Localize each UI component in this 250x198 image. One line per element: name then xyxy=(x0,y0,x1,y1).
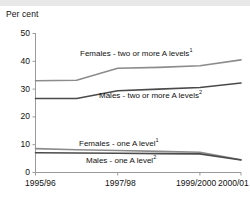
x-tick-label-1997-98: 1997/98 xyxy=(105,178,136,188)
series-line-0 xyxy=(36,60,242,81)
series-label-females-one: Females - one A level1 xyxy=(79,137,159,148)
series-label-females-two-or-more: Females - two or more A levels1 xyxy=(80,47,192,58)
line-chart: 50 40 30 20 10 0 1995/96 1997/98 1999/20… xyxy=(0,0,250,198)
series-label-text: Females - two or more A levels xyxy=(80,49,189,58)
y-tick-label-40: 40 xyxy=(12,56,30,66)
y-tick-label-50: 50 xyxy=(12,28,30,38)
y-tick-label-20: 20 xyxy=(12,111,30,121)
series-label-text: Males - one A level xyxy=(86,156,153,165)
footnote-marker: 1 xyxy=(155,137,158,143)
x-tick-label-1995-96: 1995/96 xyxy=(25,178,56,188)
y-tick-label-10: 10 xyxy=(12,139,30,149)
series-label-text: Males - two or more A levels xyxy=(99,91,199,100)
footnote-marker: 2 xyxy=(199,89,202,95)
y-tick-label-30: 30 xyxy=(12,84,30,94)
series-label-males-one: Males - one A level2 xyxy=(86,154,156,165)
y-tick-label-0: 0 xyxy=(12,167,30,177)
x-tick-label-2000-01: 2000/01 xyxy=(218,178,249,188)
footnote-marker: 2 xyxy=(153,154,156,160)
series-label-text: Females - one A level xyxy=(79,139,155,148)
footnote-marker: 1 xyxy=(189,47,192,53)
series-label-males-two-or-more: Males - two or more A levels2 xyxy=(99,89,202,100)
x-tick-label-1999-2000: 1999/2000 xyxy=(176,178,216,188)
